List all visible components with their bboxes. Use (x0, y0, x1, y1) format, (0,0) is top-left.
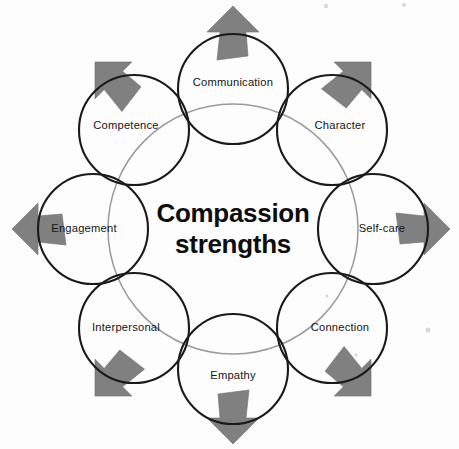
node-label-interpersonal: Interpersonal (92, 321, 160, 333)
center-title-line-2: strengths (175, 229, 291, 259)
compassion-strengths-diagram: CommunicationCharacterSelf-careConnectio… (0, 0, 459, 449)
node-label-self-care: Self-care (359, 222, 406, 234)
node-label-engagement: Engagement (51, 222, 117, 234)
node-label-competence: Competence (93, 119, 158, 131)
node-label-character: Character (315, 119, 366, 131)
node-label-empathy: Empathy (210, 369, 256, 381)
petal-circle-communication[interactable] (178, 34, 288, 144)
diagram-canvas: CommunicationCharacterSelf-careConnectio… (0, 0, 459, 449)
node-label-communication: Communication (193, 76, 273, 88)
center-title-group: Compassion strengths (156, 198, 309, 259)
center-title-line-1: Compassion (156, 198, 309, 228)
node-label-connection: Connection (311, 321, 370, 333)
